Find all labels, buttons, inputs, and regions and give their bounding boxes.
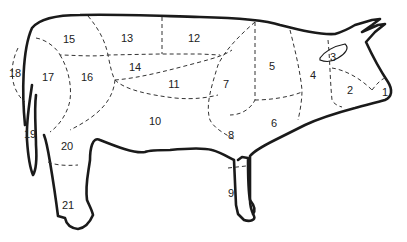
cut-label-17: 17 — [42, 72, 54, 83]
cut-label-20: 20 — [61, 141, 73, 152]
cut-label-16: 16 — [81, 72, 93, 83]
cut-label-9: 9 — [228, 188, 234, 199]
cut-label-21: 21 — [62, 200, 74, 211]
cut-label-2: 2 — [347, 85, 353, 96]
cut-label-12: 12 — [188, 33, 200, 44]
cut-label-8: 8 — [228, 130, 234, 141]
cut-label-10: 10 — [149, 116, 161, 127]
cut-label-4: 4 — [310, 70, 316, 81]
cut-label-5: 5 — [269, 61, 275, 72]
cut-label-3: 3 — [330, 52, 336, 63]
cut-label-11: 11 — [168, 79, 179, 90]
cut-label-19: 19 — [24, 129, 36, 140]
cut-label-1: 1 — [382, 87, 388, 98]
cut-label-15: 15 — [63, 34, 75, 45]
beef-cuts-diagram: 1 2 3 4 5 6 7 8 9 10 11 12 13 14 15 16 1… — [0, 0, 407, 242]
cut-label-18: 18 — [9, 68, 21, 79]
cut-label-7: 7 — [223, 79, 229, 90]
front-leg-outline — [238, 157, 254, 214]
cut-label-6: 6 — [271, 118, 277, 129]
cut-label-14: 14 — [129, 62, 141, 73]
cut-label-13: 13 — [121, 33, 133, 44]
